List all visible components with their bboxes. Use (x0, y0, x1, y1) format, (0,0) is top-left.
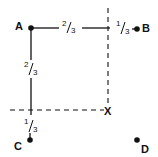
point-b-label: B (142, 22, 150, 34)
svg-text:3: 3 (33, 68, 38, 77)
point-a-label: A (15, 20, 23, 32)
point-a-dot (28, 25, 34, 31)
point-c-dot (27, 137, 33, 143)
fraction-ac-minor: 1 3 (24, 117, 38, 134)
svg-text:3: 3 (71, 26, 76, 35)
fraction-ac-major: 2 3 (24, 60, 38, 77)
svg-text:2: 2 (62, 19, 67, 28)
point-c-label: C (14, 140, 22, 152)
svg-text:3: 3 (33, 125, 38, 134)
point-d-dot (134, 137, 140, 143)
point-d-label: D (141, 143, 149, 155)
svg-text:1: 1 (24, 117, 29, 126)
fraction-ab-minor: 1 3 (116, 19, 130, 36)
svg-text:3: 3 (125, 27, 130, 36)
svg-text:1: 1 (116, 19, 121, 28)
intersection-x-label: X (104, 105, 112, 117)
division-diagram: A B C D X 2 3 1 3 2 3 1 3 (0, 0, 158, 157)
fraction-ab-major: 2 3 (62, 19, 76, 35)
svg-text:2: 2 (24, 60, 29, 69)
point-b-dot (134, 26, 140, 32)
